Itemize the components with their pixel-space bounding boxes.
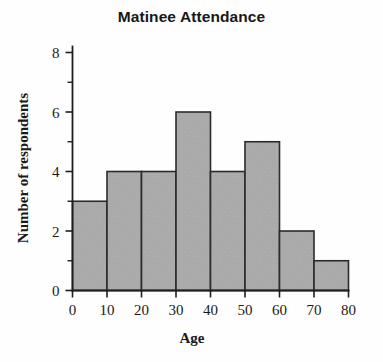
bar: [73, 201, 108, 290]
x-tick-label: 70: [307, 302, 322, 318]
x-tick-label: 0: [69, 302, 77, 318]
y-tick-label: 2: [52, 224, 60, 240]
x-tick-label: 30: [169, 302, 184, 318]
y-tick-label: 6: [52, 105, 60, 121]
y-tick-label: 0: [52, 283, 60, 299]
plot-area: 0246801020304050607080: [0, 0, 383, 362]
bar: [280, 231, 315, 291]
bars-group: [73, 112, 349, 291]
x-tick-label: 20: [134, 302, 149, 318]
bar: [211, 172, 246, 291]
y-tick-label: 8: [52, 45, 60, 61]
y-tick-label: 4: [52, 164, 60, 180]
chart-figure: Matinee Attendance Number of respondents…: [0, 0, 383, 362]
x-tick-label: 80: [341, 302, 356, 318]
x-tick-label: 50: [238, 302, 253, 318]
bar: [314, 261, 349, 291]
x-tick-label: 60: [272, 302, 287, 318]
bar: [176, 112, 211, 291]
bar: [142, 172, 177, 291]
bar: [107, 172, 142, 291]
bar: [245, 142, 280, 291]
x-tick-label: 40: [203, 302, 218, 318]
x-tick-label: 10: [100, 302, 115, 318]
